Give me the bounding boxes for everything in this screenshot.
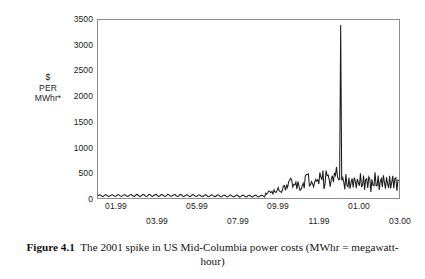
series-line-power-cost (98, 25, 399, 197)
figure-caption: Figure 4.1 The 2001 spike in US Mid-Colu… (16, 240, 409, 268)
x-tick-label-09-99: 09.99 (267, 202, 289, 211)
y-tick-label-2500: 2500 (57, 66, 93, 75)
plot-frame (97, 19, 400, 199)
x-tick-label-11-99: 11.99 (308, 217, 329, 226)
x-tick-label-03-99: 03.99 (146, 217, 168, 226)
y-tick-label-1500: 1500 (57, 118, 93, 127)
x-tick-label-03-00: 03.00 (389, 217, 411, 226)
y-tick-label-2000: 2000 (57, 92, 93, 101)
y-axis-tick-labels: 0 500 1000 1500 2000 2500 3000 3500 (57, 19, 93, 199)
y-tick-label-500: 500 (57, 169, 93, 178)
x-tick-label-05-99: 05.99 (186, 202, 208, 211)
figure-container: $ PER MWhr* 0 500 1000 1500 2000 2500 30… (0, 0, 425, 279)
x-axis-tick-labels: 01.99 03.99 05.99 07.99 09.99 11.99 01.0… (97, 200, 400, 234)
x-tick-label-01-00: 01.00 (348, 202, 370, 211)
y-tick-label-3000: 3000 (57, 40, 93, 49)
figure-caption-label: Figure 4.1 (27, 241, 75, 253)
y-tick-label-1000: 1000 (57, 143, 93, 152)
y-tick-label-0: 0 (57, 195, 93, 204)
y-tick-label-3500: 3500 (57, 15, 93, 24)
x-tick-label-01-99: 01.99 (105, 202, 127, 211)
figure-caption-text: The 2001 spike in US Mid-Columbia power … (80, 241, 398, 267)
data-line-chart (98, 20, 399, 198)
x-tick-label-07-99: 07.99 (227, 217, 249, 226)
chart-area: $ PER MWhr* 0 500 1000 1500 2000 2500 30… (0, 0, 425, 236)
